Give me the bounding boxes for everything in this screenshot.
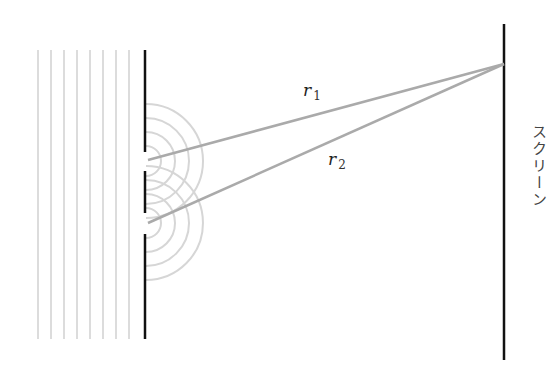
slit-1-wavefront-arc [146, 146, 161, 176]
double-slit-diagram: r1 r2 [0, 0, 559, 381]
diffracted-wavefronts [146, 104, 203, 280]
incident-plane-wavefronts [38, 50, 129, 339]
ray-r1 [148, 64, 504, 160]
slit-2-wavefront-arc [146, 180, 189, 266]
label-r2: r2 [328, 149, 346, 172]
slit-1-wavefront-arc [146, 118, 189, 204]
screen-label: スクリーン [529, 124, 549, 209]
label-r1: r1 [303, 80, 321, 103]
